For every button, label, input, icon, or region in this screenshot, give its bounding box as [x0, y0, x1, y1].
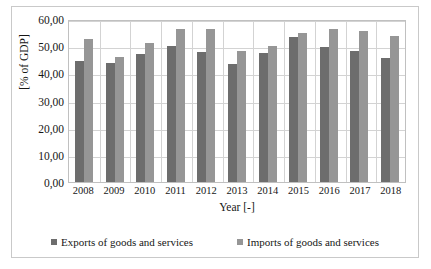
- plot-area: [68, 20, 406, 183]
- bar-imports-2015[interactable]: [298, 33, 307, 182]
- legend-item-imports[interactable]: Imports of goods and services: [237, 236, 379, 248]
- y-axis-tick-50,00: 50,00: [38, 41, 64, 53]
- y-axis-tick-0,00: 0,00: [44, 177, 64, 189]
- y-axis-tick-30,00: 30,00: [38, 96, 64, 108]
- bar-exports-2013[interactable]: [228, 64, 237, 182]
- x-axis-tick-2018: 2018: [375, 185, 406, 201]
- bar-exports-2008[interactable]: [75, 61, 84, 182]
- bar-group-2013: [222, 21, 253, 182]
- x-axis-tick-2010: 2010: [129, 185, 160, 201]
- bar-imports-2008[interactable]: [84, 39, 93, 182]
- x-axis-title: Year [-]: [68, 201, 406, 213]
- bar-group-2016: [313, 21, 344, 182]
- bar-group-2014: [252, 21, 283, 182]
- bar-group-2012: [191, 21, 222, 182]
- legend-swatch-icon-exports: [51, 239, 57, 245]
- bar-group-2008: [69, 21, 100, 182]
- x-axis-tick-2017: 2017: [345, 185, 376, 201]
- chart-figure: [% of GDP] 0,0010,0020,0030,0040,0050,00…: [0, 0, 431, 269]
- legend-item-exports[interactable]: Exports of goods and services: [51, 236, 193, 248]
- x-axis-tick-2014: 2014: [252, 185, 283, 201]
- bar-exports-2009[interactable]: [106, 63, 115, 182]
- bar-group-2015: [283, 21, 314, 182]
- bar-exports-2018[interactable]: [381, 58, 390, 182]
- y-axis-tick-60,00: 60,00: [38, 14, 64, 26]
- x-axis-tick-2015: 2015: [283, 185, 314, 201]
- y-axis-tick-10,00: 10,00: [38, 150, 64, 162]
- bar-group-2018: [374, 21, 405, 182]
- bar-exports-2014[interactable]: [259, 53, 268, 182]
- bar-exports-2010[interactable]: [136, 54, 145, 182]
- x-axis-tick-2008: 2008: [68, 185, 99, 201]
- x-axis-tick-2016: 2016: [314, 185, 345, 201]
- legend-label-imports: Imports of goods and services: [247, 236, 379, 248]
- x-axis-tick-2009: 2009: [99, 185, 130, 201]
- chart-legend: Exports of goods and services Imports of…: [11, 236, 419, 248]
- bar-imports-2016[interactable]: [329, 29, 338, 182]
- bar-exports-2012[interactable]: [197, 52, 206, 182]
- bar-imports-2010[interactable]: [145, 43, 154, 182]
- bar-exports-2016[interactable]: [320, 47, 329, 182]
- bar-imports-2011[interactable]: [176, 29, 185, 182]
- bar-imports-2012[interactable]: [206, 29, 215, 182]
- bar-exports-2017[interactable]: [350, 51, 359, 182]
- legend-swatch-icon-imports: [237, 239, 243, 245]
- bar-imports-2009[interactable]: [115, 57, 124, 182]
- y-axis-tick-20,00: 20,00: [38, 123, 64, 135]
- bar-group-2010: [130, 21, 161, 182]
- x-axis-tick-2011: 2011: [160, 185, 191, 201]
- bar-group-2017: [344, 21, 375, 182]
- bar-groups: [69, 21, 405, 182]
- bar-imports-2013[interactable]: [237, 51, 246, 182]
- x-axis-tick-2013: 2013: [222, 185, 253, 201]
- bar-group-2009: [100, 21, 131, 182]
- bar-exports-2015[interactable]: [289, 37, 298, 182]
- bar-imports-2014[interactable]: [268, 46, 277, 182]
- bar-exports-2011[interactable]: [167, 46, 176, 182]
- x-axis-tick-2012: 2012: [191, 185, 222, 201]
- bar-imports-2018[interactable]: [390, 36, 399, 182]
- legend-label-exports: Exports of goods and services: [61, 236, 193, 248]
- y-axis-tick-40,00: 40,00: [38, 68, 64, 80]
- bar-imports-2017[interactable]: [359, 31, 368, 182]
- bar-group-2011: [161, 21, 192, 182]
- x-axis-tick-labels: 2008200920102011201220132014201520162017…: [68, 185, 406, 201]
- y-axis-tick-labels: 0,0010,0020,0030,0040,0050,0060,00: [24, 14, 66, 190]
